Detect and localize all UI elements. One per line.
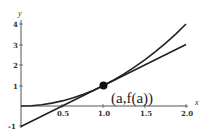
x-tick-label: 2.0: [181, 109, 193, 118]
chart: 0.5 1.0 1.5 2.0 -1 1 2 3 4 y x (a,f(a)): [0, 0, 209, 135]
y-tick-label: 3: [13, 41, 18, 50]
x-axis-label: x: [194, 98, 199, 107]
y-tick-label: -1: [8, 122, 16, 131]
y-tick-label: 2: [13, 61, 18, 70]
curve-f: [21, 24, 186, 106]
x-tick-label: 1.0: [98, 109, 110, 118]
point-label: (a,f(a)): [111, 90, 153, 107]
y-tick-label: 1: [13, 82, 18, 91]
x-tick-label: 1.5: [140, 109, 152, 118]
y-axis-label: y: [17, 9, 22, 18]
x-tick-label: 0.5: [57, 109, 69, 118]
tangent-point: [100, 82, 108, 90]
y-tick-label: 4: [13, 20, 18, 29]
